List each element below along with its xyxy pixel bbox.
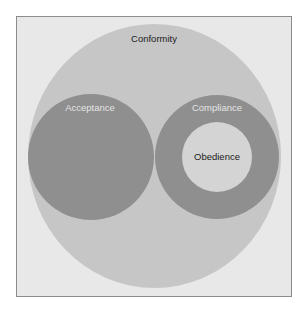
- compliance-label: Compliance: [192, 102, 242, 113]
- euler-diagram: Conformity Acceptance Compliance Obedien…: [0, 0, 304, 312]
- conformity-label: Conformity: [131, 33, 177, 44]
- acceptance-label: Acceptance: [65, 102, 115, 113]
- obedience-label: Obedience: [194, 151, 240, 162]
